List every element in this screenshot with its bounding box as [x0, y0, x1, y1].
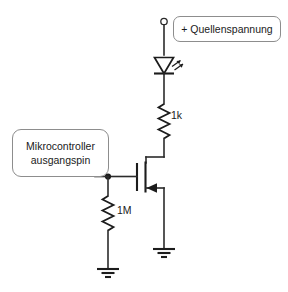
- led-triangle: [155, 58, 174, 74]
- ground-symbol-gate: [97, 269, 119, 277]
- microcontroller-label-lines: Mikrocontroller ausgangspin: [26, 140, 95, 167]
- resistor-1k-label: 1k: [171, 109, 182, 121]
- supply-terminal-circle: [161, 18, 167, 24]
- ground-symbol-source: [153, 249, 175, 257]
- resistor-1k-zigzag: [159, 104, 170, 139]
- microcontroller-label-line1: Mikrocontroller: [26, 140, 95, 153]
- mosfet-source-arrow: [147, 183, 158, 193]
- microcontroller-label-box: Mikrocontroller ausgangspin: [12, 129, 109, 177]
- resistor-1m-label: 1M: [117, 204, 132, 216]
- supply-label-text: + Quellenspannung: [181, 23, 272, 36]
- led-emission-arrows: [172, 61, 183, 71]
- supply-label-box: + Quellenspannung: [173, 16, 281, 42]
- microcontroller-label-line2: ausgangspin: [26, 154, 95, 167]
- resistor-1m-zigzag: [103, 196, 114, 231]
- circuit-diagram-canvas: + Quellenspannung Mikrocontroller ausgan…: [0, 0, 288, 292]
